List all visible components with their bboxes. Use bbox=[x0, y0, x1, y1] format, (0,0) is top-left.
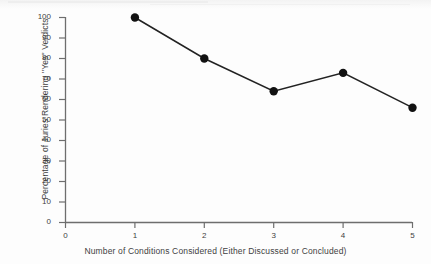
data-point-3 bbox=[270, 87, 278, 95]
data-point-5 bbox=[408, 104, 416, 112]
data-point-1 bbox=[131, 13, 139, 21]
y-axis-ticks bbox=[59, 18, 65, 223]
line-chart-plot bbox=[0, 0, 431, 264]
y-axis-title: Percentage of Juries Rendering "Yes" Ver… bbox=[40, 0, 50, 219]
x-axis-title: Number of Conditions Considered (Either … bbox=[0, 246, 431, 256]
x-tick-label-4: 4 bbox=[333, 231, 353, 240]
data-point-4 bbox=[339, 69, 347, 77]
x-tick-label-3: 3 bbox=[264, 231, 284, 240]
x-tick-label-5: 5 bbox=[403, 231, 423, 240]
x-tick-label-2: 2 bbox=[194, 231, 214, 240]
data-points bbox=[131, 13, 417, 112]
x-tick-label-1: 1 bbox=[125, 231, 145, 240]
chart-figure: 100 90 80 70 60 50 40 30 20 10 0 0 1 2 3… bbox=[0, 0, 431, 264]
data-point-2 bbox=[200, 54, 208, 62]
x-tick-label-0: 0 bbox=[56, 231, 76, 240]
